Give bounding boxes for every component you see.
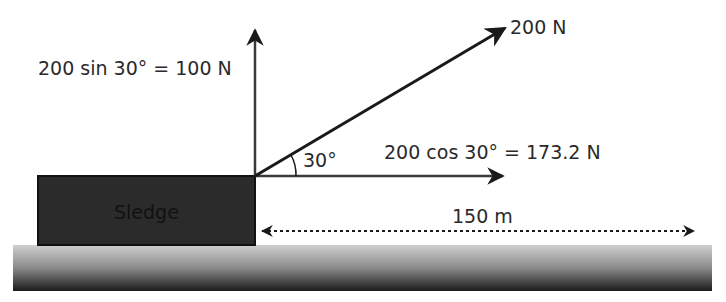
horizontal-component-label: 200 cos 30° = 173.2 N <box>384 143 601 162</box>
angle-arc <box>291 155 296 176</box>
diagram-canvas <box>0 0 726 302</box>
force-diagram: 200 sin 30° = 100 N 200 N 30° 200 cos 30… <box>0 0 726 302</box>
distance-label: 150 m <box>452 207 513 226</box>
vertical-component-label: 200 sin 30° = 100 N <box>38 59 232 78</box>
ground <box>13 245 712 291</box>
applied-force-label: 200 N <box>510 18 567 37</box>
angle-label: 30° <box>303 151 337 170</box>
sledge-label: Sledge <box>114 203 179 222</box>
